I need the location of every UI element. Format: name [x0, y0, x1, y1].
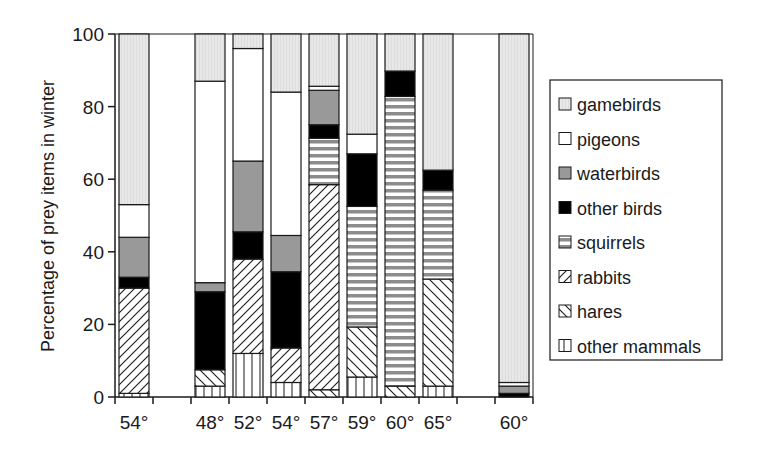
legend-label: gamebirds	[577, 95, 661, 115]
bar-segment-rabbits	[271, 348, 301, 382]
x-tick-label: 65°	[424, 412, 453, 433]
bar-stack	[309, 34, 339, 397]
bar-segment-squirrels	[385, 96, 415, 386]
x-tick-label: 54°	[120, 412, 149, 433]
legend-label: other birds	[577, 199, 662, 219]
bar-segment-squirrels	[347, 206, 377, 327]
bar-segment-gamebirds	[423, 34, 453, 170]
bar-segment-other-birds	[271, 272, 301, 348]
bar-segment-other-birds	[309, 125, 339, 138]
bar-segment-waterbirds	[309, 90, 339, 124]
legend-item-other-mammals: other mammals	[559, 337, 701, 357]
bar-segment-hares	[385, 386, 415, 397]
legend-swatch	[559, 305, 571, 317]
bar-segment-rabbits	[309, 185, 339, 390]
legend-label: pigeons	[577, 130, 640, 150]
bar-segment-gamebirds	[347, 34, 377, 134]
bar-stack	[347, 34, 377, 397]
bar-segment-pigeons	[195, 81, 225, 282]
x-tick-label: 60°	[386, 412, 415, 433]
legend-swatch	[559, 202, 571, 214]
bar-stack	[423, 34, 453, 397]
x-tick-label: 54°	[272, 412, 301, 433]
x-tick-label: 60°	[500, 412, 529, 433]
bar-segment-gamebirds	[119, 34, 149, 205]
bar-segment-waterbirds	[499, 386, 529, 393]
y-tick-label: 40	[83, 242, 104, 263]
bar-segment-gamebirds	[271, 34, 301, 92]
bar-segment-rabbits	[233, 259, 263, 353]
legend: gamebirdspigeonswaterbirdsother birdssqu…	[550, 80, 722, 360]
bar-segment-other-mammals	[195, 386, 225, 397]
bar-segment-pigeons	[271, 92, 301, 235]
bar-segment-pigeons	[233, 49, 263, 162]
legend-label: rabbits	[577, 268, 631, 288]
bar-segment-rabbits	[119, 288, 149, 393]
legend-label: waterbirds	[576, 164, 660, 184]
legend-swatch	[559, 236, 571, 248]
bar-segment-gamebirds	[309, 34, 339, 86]
bar-segment-squirrels	[423, 190, 453, 279]
bar-segment-gamebirds	[195, 34, 225, 81]
bars	[119, 34, 529, 397]
bar-segment-waterbirds	[271, 235, 301, 271]
bar-stack	[233, 34, 263, 397]
bar-segment-hares	[423, 279, 453, 386]
bar-segment-other-birds	[233, 232, 263, 259]
y-tick-label: 100	[72, 24, 104, 45]
y-tick-label: 20	[83, 314, 104, 335]
stacked-bar-chart: 020406080100 54°48°52°54°57°59°60°65°60°…	[0, 0, 764, 459]
legend-box	[550, 80, 722, 360]
x-tick-label: 57°	[310, 412, 339, 433]
bar-segment-hares	[347, 327, 377, 377]
bar-segment-gamebirds	[499, 34, 529, 382]
x-tick-label: 48°	[196, 412, 225, 433]
bar-segment-waterbirds	[233, 161, 263, 232]
y-tick-label: 60	[83, 169, 104, 190]
bar-segment-other-mammals	[347, 377, 377, 397]
y-axis-title: Percentage of prey items in winter	[38, 80, 58, 352]
legend-label: other mammals	[577, 337, 701, 357]
y-tick-label: 0	[93, 387, 104, 408]
x-tick-label: 52°	[234, 412, 263, 433]
bar-segment-hares	[195, 370, 225, 386]
bar-segment-other-mammals	[271, 382, 301, 397]
bar-stack	[385, 34, 415, 397]
bar-segment-other-birds	[195, 292, 225, 370]
x-tick-label: 59°	[348, 412, 377, 433]
bar-segment-pigeons	[119, 205, 149, 238]
bar-segment-waterbirds	[119, 237, 149, 277]
bar-segment-other-birds	[347, 154, 377, 207]
legend-swatch	[559, 271, 571, 283]
bar-segment-other-mammals	[423, 386, 453, 397]
legend-label: squirrels	[577, 233, 645, 253]
bar-segment-hares	[309, 390, 339, 397]
bar-stack	[271, 34, 301, 397]
legend-swatch	[559, 98, 571, 110]
bar-segment-squirrels	[309, 138, 339, 184]
bar-segment-gamebirds	[385, 34, 415, 71]
bar-segment-other-birds	[385, 71, 415, 96]
bar-segment-gamebirds	[233, 34, 263, 49]
y-tick-label: 80	[83, 97, 104, 118]
bar-segment-other-mammals	[233, 353, 263, 397]
bar-stack	[499, 34, 529, 397]
legend-label: hares	[577, 302, 622, 322]
legend-swatch	[559, 340, 571, 352]
bar-segment-pigeons	[347, 134, 377, 154]
bar-segment-waterbirds	[195, 283, 225, 292]
bar-segment-other-birds	[423, 170, 453, 190]
bar-segment-other-birds	[119, 277, 149, 288]
bar-stack	[195, 34, 225, 397]
bar-stack	[119, 34, 149, 397]
legend-swatch	[559, 133, 571, 145]
legend-swatch	[559, 167, 571, 179]
